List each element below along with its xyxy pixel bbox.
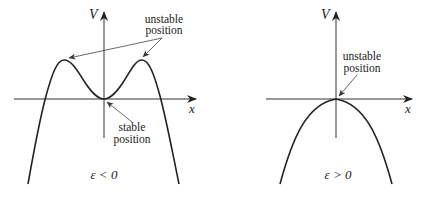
left-x-axis-label: x — [188, 101, 195, 116]
left-stable-label-line2: position — [113, 133, 150, 146]
left-panel: V x unstable position stable position ε … — [14, 7, 196, 184]
right-x-axis-label: x — [404, 101, 411, 116]
left-y-axis-label: V — [89, 7, 99, 22]
right-unstable-label-line2: position — [343, 62, 380, 75]
right-condition-label: ε > 0 — [325, 167, 352, 182]
left-unstable-pointer-left — [69, 38, 162, 58]
left-condition-label: ε < 0 — [91, 167, 118, 182]
left-stable-label-line1: stable — [119, 121, 146, 133]
left-stable-pointer — [107, 102, 132, 122]
right-panel: V x unstable position ε > 0 — [266, 7, 412, 184]
left-unstable-label-line2: position — [145, 24, 182, 37]
right-y-axis-label: V — [321, 7, 331, 22]
right-unstable-label-line1: unstable — [343, 50, 381, 62]
right-unstable-pointer — [339, 75, 357, 96]
left-unstable-pointer-right — [143, 38, 162, 57]
potential-diagram: V x unstable position stable position ε … — [0, 0, 423, 198]
